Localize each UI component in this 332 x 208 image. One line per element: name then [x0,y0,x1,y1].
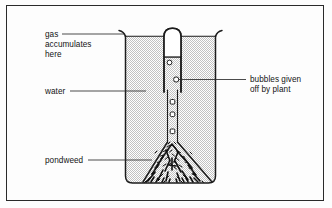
bubble [167,60,172,65]
label-gas-line1: gas [45,30,58,39]
label-gas-line3: here [45,50,62,59]
diagram-page: gas accumulates here water pondweed bubb… [0,0,332,208]
label-water: water [44,87,65,96]
label-bubbles-given-off-by-plant: bubbles given off by plant [250,75,302,94]
water-body [124,36,217,184]
pondweed-photosynthesis-diagram: gas accumulates here water pondweed bubb… [0,0,332,208]
bubble [170,100,175,105]
bubble [170,129,175,134]
label-pondweed: pondweed [45,156,84,165]
label-bubbles-line1: bubbles given [250,75,302,84]
bubble-labelled [174,77,179,82]
label-gas-line2: accumulates [45,40,92,49]
label-bubbles-line2: off by plant [250,85,291,94]
bubble [170,112,175,117]
